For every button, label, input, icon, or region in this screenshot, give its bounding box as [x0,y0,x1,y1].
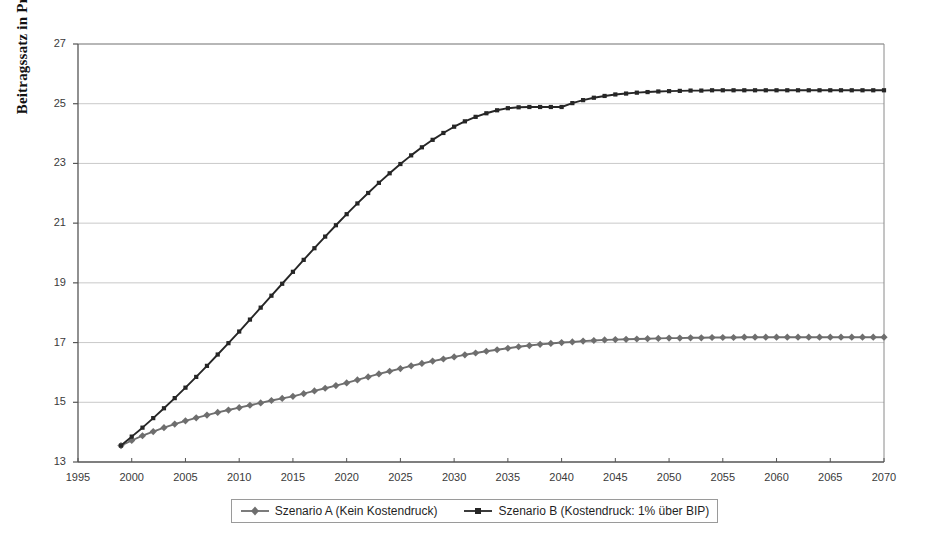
data-point-marker [441,131,445,135]
data-point-marker [560,105,564,109]
data-point-marker [710,88,714,92]
data-point-marker [257,399,264,406]
data-point-marker [850,88,854,92]
data-point-marker [484,111,488,115]
data-point-marker [162,406,166,410]
data-point-marker [225,406,232,413]
data-point-marker [678,89,682,93]
data-point-marker [139,432,146,439]
data-point-marker [688,88,692,92]
data-point-marker [807,88,811,92]
data-point-marker [774,88,778,92]
data-point-marker [182,417,189,424]
data-point-marker [451,353,458,360]
data-point-marker [602,94,606,98]
data-point-marker [665,334,672,341]
data-point-marker [377,181,381,185]
data-point-marker [388,171,392,175]
data-point-marker [302,258,306,262]
data-point-marker [527,105,531,109]
data-point-marker [365,373,372,380]
data-point-marker [322,385,329,392]
data-point-marker [269,294,273,298]
data-point-marker [440,355,447,362]
data-point-marker [472,349,479,356]
data-point-marker [859,334,866,341]
data-point-marker [537,341,544,348]
data-point-marker [205,364,209,368]
data-point-marker [742,88,746,92]
data-point-marker [506,106,510,110]
data-point-marker [645,90,649,94]
data-point-marker [558,339,565,346]
data-point-marker [418,360,425,367]
data-point-marker [817,88,821,92]
data-point-marker [259,306,263,310]
data-point-marker [236,404,243,411]
data-point-marker [699,88,703,92]
data-point-marker [386,368,393,375]
data-point-marker [160,424,167,431]
data-point-marker [827,334,834,341]
data-point-marker [698,334,705,341]
data-point-marker [633,335,640,342]
data-point-marker [730,334,737,341]
data-point-marker [248,317,252,321]
data-point-marker [183,386,187,390]
data-point-marker [592,96,596,100]
data-point-marker [753,88,757,92]
data-point-marker [796,88,800,92]
data-point-marker [721,88,725,92]
series-szenario-a [117,334,887,450]
data-point-marker [644,335,651,342]
data-point-marker [214,409,221,416]
data-point-marker [839,88,843,92]
data-point-marker [635,91,639,95]
series-line [121,90,884,445]
plot-area [0,0,934,537]
data-point-marker [289,393,296,400]
data-point-marker [880,334,887,341]
chart-legend: Szenario A (Kein Kostendruck) Szenario B… [231,499,718,523]
series-line [121,337,884,445]
data-point-marker [656,89,660,93]
data-point-marker [504,345,511,352]
data-point-marker [613,92,617,96]
data-point-marker [719,334,726,341]
data-point-marker [805,334,812,341]
data-point-marker [622,336,629,343]
data-point-marker [517,105,521,109]
legend-label-szenario-a: Szenario A (Kein Kostendruck) [275,504,438,518]
data-point-marker [731,88,735,92]
data-point-marker [194,375,198,379]
data-point-marker [676,334,683,341]
data-point-marker [515,343,522,350]
data-point-marker [751,334,758,341]
data-point-marker [429,357,436,364]
data-point-marker [173,396,177,400]
legend-item-szenario-b[interactable]: Szenario B (Kostendruck: 1% über BIP) [463,504,709,518]
data-point-marker [871,88,875,92]
data-point-marker [332,382,339,389]
data-point-marker [762,334,769,341]
legend-item-szenario-a[interactable]: Szenario A (Kein Kostendruck) [240,504,438,518]
data-point-marker [570,101,574,105]
data-point-marker [816,334,823,341]
data-point-marker [837,334,844,341]
data-point-marker [547,340,554,347]
data-point-marker [420,145,424,149]
data-point-marker [171,420,178,427]
data-point-marker [409,153,413,157]
data-point-marker [741,334,748,341]
data-point-marker [203,412,210,419]
data-point-marker [119,443,123,447]
data-point-marker [130,435,134,439]
data-point-marker [581,98,585,102]
data-point-marker [784,334,791,341]
data-point-marker [398,162,402,166]
legend-marker-square-icon [463,505,493,517]
data-point-marker [279,395,286,402]
data-point-marker [708,334,715,341]
data-point-marker [268,397,275,404]
data-point-marker [291,270,295,274]
